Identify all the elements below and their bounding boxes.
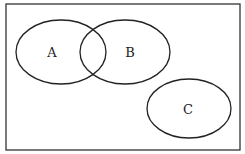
venn-diagram: A B C (0, 0, 245, 154)
set-a-label: A (46, 45, 57, 60)
set-b-label: B (125, 45, 135, 60)
set-c-label: C (183, 102, 193, 117)
universal-set-rectangle (6, 4, 240, 150)
